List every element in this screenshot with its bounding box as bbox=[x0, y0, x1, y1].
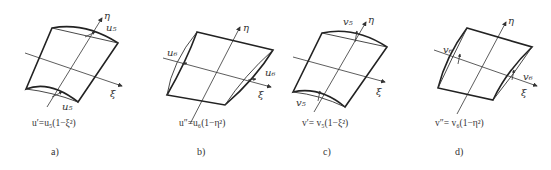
u6-left-label: u₆ bbox=[167, 47, 177, 58]
u6-right-arrow bbox=[248, 79, 256, 80]
diagram-canvas: η ξ u₅ u₅ u′=u₅(1−ξ²) a) η ξ u₆ u₆ u″=u₆… bbox=[0, 0, 551, 170]
caption: d) bbox=[455, 146, 463, 158]
u5-top-label: u₅ bbox=[106, 22, 116, 33]
left-edge-undeformed bbox=[438, 28, 467, 88]
u5-bottom-label: u₅ bbox=[62, 101, 72, 112]
formula: v″= v₆(1−η²) bbox=[435, 118, 484, 129]
eta-label: η bbox=[508, 15, 514, 26]
element-deformed bbox=[293, 31, 387, 107]
v5-bottom-label: v₅ bbox=[296, 97, 306, 108]
formula: u″=u₆(1−η²) bbox=[179, 118, 225, 129]
eta-label: η bbox=[368, 14, 374, 25]
panel-b: η ξ u₆ u₆ u″=u₆(1−η²) b) bbox=[163, 22, 275, 158]
eta-label: η bbox=[104, 10, 110, 21]
xi-label: ξ bbox=[376, 86, 382, 97]
formula: v′= v₅(1−ξ²) bbox=[302, 118, 348, 129]
xi-label: ξ bbox=[258, 89, 264, 100]
panel-c: η ξ v₅ v₅ v′= v₅(1−ξ²) c) bbox=[293, 14, 387, 158]
xi-label: ξ bbox=[110, 88, 116, 99]
panel-a: η ξ u₅ u₅ u′=u₅(1−ξ²) a) bbox=[25, 10, 122, 158]
caption: c) bbox=[323, 146, 331, 158]
eta-label: η bbox=[243, 22, 249, 33]
caption: a) bbox=[51, 146, 59, 158]
eta-axis bbox=[457, 22, 506, 114]
xi-label: ξ bbox=[521, 87, 527, 98]
v6-left-label: v₆ bbox=[443, 44, 453, 55]
formula: u′=u₅(1−ξ²) bbox=[32, 118, 76, 129]
eta-axis bbox=[190, 27, 240, 124]
caption: b) bbox=[197, 146, 205, 158]
panel-d: η ξ v₆ v₆ v″= v₆(1−η²) d) bbox=[434, 15, 537, 158]
eta-axis bbox=[314, 22, 366, 112]
v5-top-label: v₅ bbox=[343, 16, 353, 27]
v6-right-label: v₆ bbox=[523, 71, 533, 82]
u6-right-label: u₆ bbox=[265, 67, 275, 78]
top-edge-undeformed bbox=[322, 33, 387, 47]
element-deformed bbox=[438, 28, 532, 100]
